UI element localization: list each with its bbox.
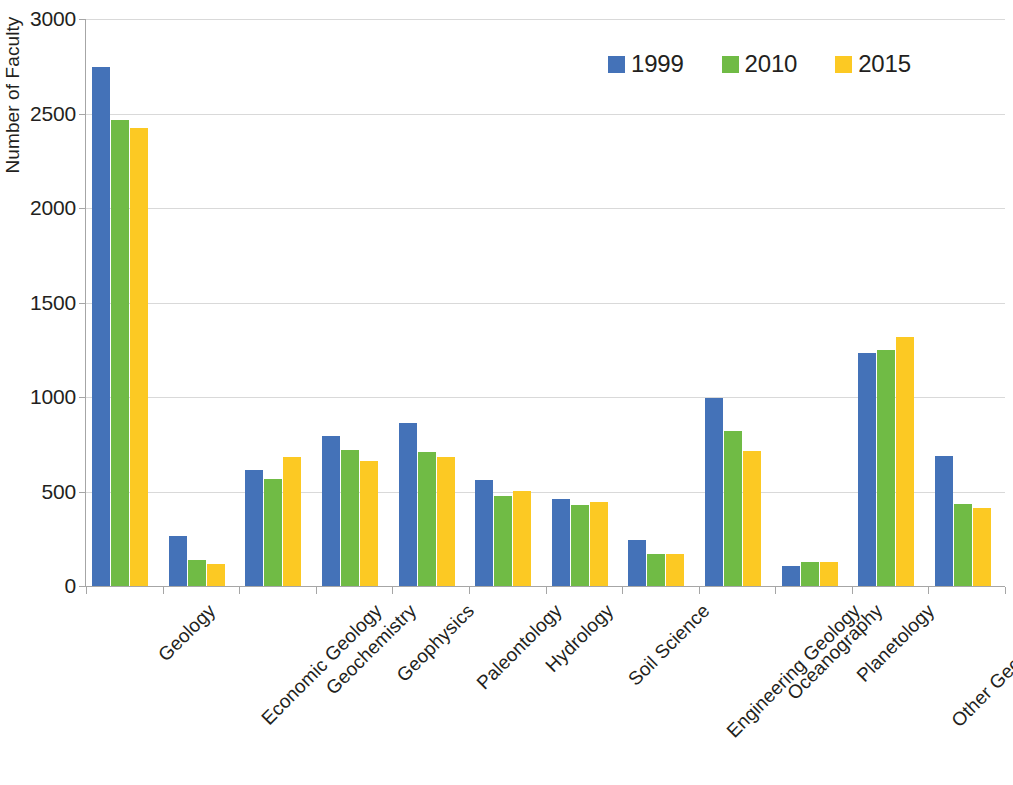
y-tick-mark xyxy=(79,492,86,493)
x-tick-mark xyxy=(86,587,87,594)
bar xyxy=(188,560,206,586)
x-tick-label: Geology xyxy=(154,600,220,666)
legend-item: 2015 xyxy=(835,52,911,76)
bar-group xyxy=(169,19,225,586)
y-tick-label: 1500 xyxy=(4,291,76,315)
bar xyxy=(590,502,608,586)
y-tick-mark xyxy=(79,114,86,115)
x-tick-mark xyxy=(163,587,164,594)
bar xyxy=(418,452,436,586)
bar xyxy=(283,457,301,586)
x-tick-mark xyxy=(928,587,929,594)
legend-swatch-icon xyxy=(722,56,739,73)
x-tick-mark xyxy=(469,587,470,594)
y-tick-label: 0 xyxy=(4,574,76,598)
bar-chart: Number of Faculty 0500100015002000250030… xyxy=(0,0,1013,785)
bar xyxy=(954,504,972,586)
x-tick-mark xyxy=(699,587,700,594)
bar-group xyxy=(92,19,148,586)
bar-group xyxy=(399,19,455,586)
legend-item: 1999 xyxy=(608,52,684,76)
x-tick-mark xyxy=(622,587,623,594)
x-tick-mark xyxy=(852,587,853,594)
bar xyxy=(628,540,646,586)
bar xyxy=(552,499,570,587)
bar xyxy=(877,350,895,586)
y-tick-label: 500 xyxy=(4,480,76,504)
legend-swatch-icon xyxy=(608,56,625,73)
bar xyxy=(666,554,684,586)
bar xyxy=(92,67,110,586)
x-tick-mark xyxy=(392,587,393,594)
x-tick-label: Paleontology xyxy=(472,600,566,694)
bar xyxy=(513,491,531,586)
legend: 199920102015 xyxy=(608,52,911,76)
y-tick-label: 1000 xyxy=(4,385,76,409)
bar xyxy=(896,337,914,586)
y-tick-label: 3000 xyxy=(4,7,76,31)
bar xyxy=(494,496,512,586)
bar xyxy=(935,456,953,586)
bar xyxy=(973,508,991,586)
x-tick-mark xyxy=(775,587,776,594)
bar xyxy=(245,470,263,586)
bar xyxy=(782,566,800,586)
y-tick-label: 2500 xyxy=(4,102,76,126)
bar xyxy=(437,457,455,586)
bar xyxy=(705,398,723,586)
bar xyxy=(820,562,838,586)
x-tick-mark xyxy=(316,587,317,594)
bar xyxy=(801,562,819,586)
x-tick-mark xyxy=(546,587,547,594)
bar xyxy=(341,450,359,586)
plot-area xyxy=(86,19,1005,586)
bar xyxy=(322,436,340,586)
bar xyxy=(207,564,225,586)
bar xyxy=(111,120,129,586)
legend-label: 2015 xyxy=(858,52,911,76)
y-tick-mark xyxy=(79,397,86,398)
bar-group xyxy=(782,19,838,586)
bar-group xyxy=(245,19,301,586)
bar xyxy=(169,536,187,586)
legend-swatch-icon xyxy=(835,56,852,73)
bar xyxy=(743,451,761,586)
y-tick-mark xyxy=(79,208,86,209)
legend-label: 2010 xyxy=(745,52,798,76)
bar xyxy=(399,423,417,586)
bar xyxy=(571,505,589,586)
bar xyxy=(724,431,742,586)
x-tick-label: Other Geosciences xyxy=(947,600,1013,732)
legend-item: 2010 xyxy=(722,52,798,76)
bar xyxy=(475,480,493,586)
bar-group xyxy=(322,19,378,586)
bar-group xyxy=(475,19,531,586)
bar xyxy=(360,461,378,586)
bar xyxy=(647,554,665,586)
y-axis-tick-labels: 050010001500200025003000 xyxy=(0,0,76,785)
bar-group xyxy=(628,19,684,586)
x-tick-label: Engineering Geology xyxy=(722,600,864,742)
bar-group xyxy=(935,19,991,586)
y-tick-mark xyxy=(79,586,86,587)
y-tick-label: 2000 xyxy=(4,196,76,220)
bar xyxy=(264,479,282,586)
x-tick-mark xyxy=(239,587,240,594)
x-tick-label: Soil Science xyxy=(624,600,714,690)
y-tick-mark xyxy=(79,19,86,20)
bar-group xyxy=(705,19,761,586)
bar-group xyxy=(858,19,914,586)
x-tick-mark xyxy=(1005,587,1006,594)
bar xyxy=(858,353,876,586)
y-tick-mark xyxy=(79,303,86,304)
bar-group xyxy=(552,19,608,586)
legend-label: 1999 xyxy=(631,52,684,76)
bar xyxy=(130,128,148,586)
